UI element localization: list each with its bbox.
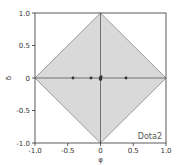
x-tick-label: 1.0 (160, 147, 171, 155)
y-axis-label: δ (5, 76, 13, 80)
y-tick-label: 0 (26, 75, 30, 83)
y-tick-label: 1.0 (19, 10, 30, 18)
x-tick-label: 0.5 (128, 147, 139, 155)
y-ticks (32, 13, 35, 143)
chart: 1.0 0.5 0 -0.5 -1.0 -1.0 -0.5 0 0.5 1.0 … (0, 0, 180, 165)
x-axis-label: φ (98, 156, 103, 164)
x-ticks (35, 143, 166, 146)
x-tick-label: 0 (98, 147, 102, 155)
dataset-annotation: Dota2 (138, 132, 162, 141)
data-point (125, 77, 128, 80)
x-tick-label: -0.5 (61, 147, 75, 155)
y-tick-label: 0.5 (19, 42, 30, 50)
data-point (72, 77, 75, 80)
x-tick-label: -1.0 (28, 147, 42, 155)
y-tick-label: -0.5 (16, 107, 30, 115)
data-point (90, 77, 93, 80)
data-point (99, 78, 102, 81)
